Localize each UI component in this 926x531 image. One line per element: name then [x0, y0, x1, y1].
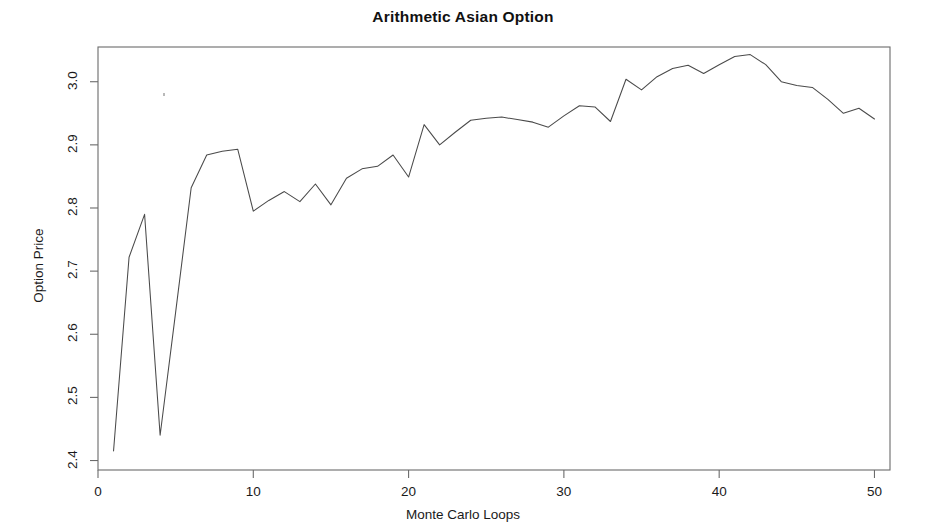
x-tick-label: 50 — [854, 484, 894, 499]
y-axis-title: Option Price — [31, 206, 46, 326]
x-axis-title: Monte Carlo Loops — [0, 507, 926, 522]
x-tick-marks — [98, 470, 874, 478]
y-tick-label: 2.5 — [65, 376, 80, 416]
x-tick-label: 20 — [389, 484, 429, 499]
y-tick-label: 3.0 — [65, 60, 80, 100]
plot-area — [0, 0, 926, 531]
x-tick-label: 40 — [699, 484, 739, 499]
y-tick-label: 2.4 — [65, 439, 80, 479]
plot-frame — [98, 47, 890, 470]
x-tick-label: 30 — [544, 484, 584, 499]
chart-figure: Arithmetic Asian Option 01020304050 2.42… — [0, 0, 926, 531]
y-tick-label: 2.6 — [65, 313, 80, 353]
y-tick-label: 2.8 — [65, 186, 80, 226]
x-tick-label: 0 — [78, 484, 118, 499]
y-tick-label: 2.9 — [65, 123, 80, 163]
data-line-series — [114, 55, 875, 451]
y-tick-marks — [90, 82, 98, 461]
scan-speck-artifact — [163, 93, 165, 96]
y-tick-label: 2.7 — [65, 250, 80, 290]
x-tick-label: 10 — [233, 484, 273, 499]
